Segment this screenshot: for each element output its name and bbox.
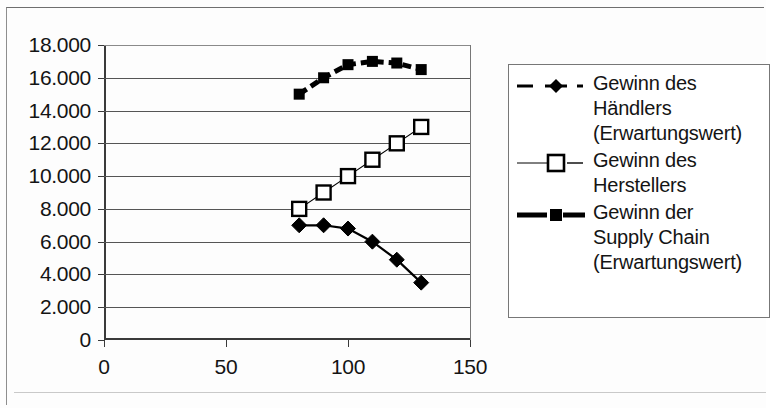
data-point-marker [341, 221, 356, 236]
y-axis-tick-label: 6.000 [0, 230, 91, 254]
legend-item-haendler: Gewinn des Händlers (Erwartungswert) [509, 73, 769, 146]
y-axis-tick-label: 16.000 [0, 66, 91, 90]
x-axis-tick [348, 340, 349, 347]
y-axis-tick-label: 4.000 [0, 262, 91, 286]
dashed-line-filled-diamond-key [515, 73, 593, 99]
data-point-marker [294, 89, 305, 100]
x-axis-tick [104, 340, 105, 347]
data-point-marker [292, 218, 307, 233]
data-point-marker [367, 56, 378, 67]
data-point-marker [341, 169, 355, 183]
series-layer [104, 45, 470, 340]
legend-label-supply-chain: Gewinn der Supply Chain (Erwartungswert) [593, 200, 742, 275]
thick-dashed-line-filled-square-key [515, 202, 593, 228]
series-line [299, 61, 421, 94]
y-axis-tick-label: 2.000 [0, 295, 91, 319]
plot-wrapper [104, 45, 470, 340]
x-axis-tick-label: 50 [215, 355, 238, 379]
y-axis-tick-label: 8.000 [0, 197, 91, 221]
y-axis-tick-label: 14.000 [0, 99, 91, 123]
data-point-marker [365, 234, 380, 249]
y-axis-tick-label: 0 [0, 328, 91, 352]
data-point-marker [391, 58, 402, 69]
series-2 [294, 56, 427, 100]
legend-label-hersteller: Gewinn des Herstellers [593, 148, 697, 198]
y-axis-tick-label: 18.000 [0, 33, 91, 57]
x-axis-tick [226, 340, 227, 347]
data-point-marker [318, 72, 329, 83]
thin-line-open-square-key [515, 150, 593, 176]
y-axis-tick-label: 12.000 [0, 131, 91, 155]
legend-item-hersteller: Gewinn des Herstellers [509, 150, 769, 198]
y-axis-tick-label: 10.000 [0, 164, 91, 188]
series-line [299, 225, 421, 282]
data-point-marker [316, 218, 331, 233]
x-axis-tick-label: 100 [331, 355, 365, 379]
legend-label-haendler: Gewinn des Händlers (Erwartungswert) [593, 71, 742, 146]
data-point-marker [317, 186, 331, 200]
plot-right-edge [470, 45, 471, 340]
page-bottom-rule [14, 392, 766, 393]
x-axis-tick-label: 0 [98, 355, 109, 379]
data-point-marker [343, 59, 354, 70]
data-point-marker [416, 64, 427, 75]
legend-item-supply-chain: Gewinn der Supply Chain (Erwartungswert) [509, 202, 769, 275]
x-axis-tick-label: 150 [453, 355, 487, 379]
x-axis-tick [470, 340, 471, 347]
data-point-marker [390, 136, 404, 150]
data-point-marker [365, 153, 379, 167]
series-1 [292, 120, 428, 216]
series-0 [292, 218, 429, 290]
data-point-marker [414, 120, 428, 134]
chart-legend: Gewinn des Händlers (Erwartungswert) Gew… [508, 64, 770, 318]
data-point-marker [292, 202, 306, 216]
